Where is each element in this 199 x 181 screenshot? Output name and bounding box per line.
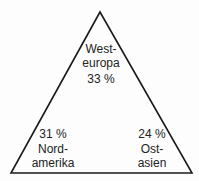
region-label-line: amerika (18, 156, 88, 170)
region-nordamerika: 31 % Nord- amerika (18, 127, 88, 170)
region-label-line: Ost- (117, 142, 187, 156)
region-label-line: asien (117, 156, 187, 170)
region-label-line: Nord- (18, 142, 88, 156)
region-ostasien: 24 % Ost- asien (117, 127, 187, 170)
region-value: 31 % (18, 127, 88, 141)
region-label-line: europa (66, 56, 136, 70)
region-label-line: West- (66, 42, 136, 56)
region-westeuropa: West- europa 33 % (66, 42, 136, 86)
region-value: 24 % (117, 127, 187, 141)
region-value: 33 % (66, 72, 136, 86)
